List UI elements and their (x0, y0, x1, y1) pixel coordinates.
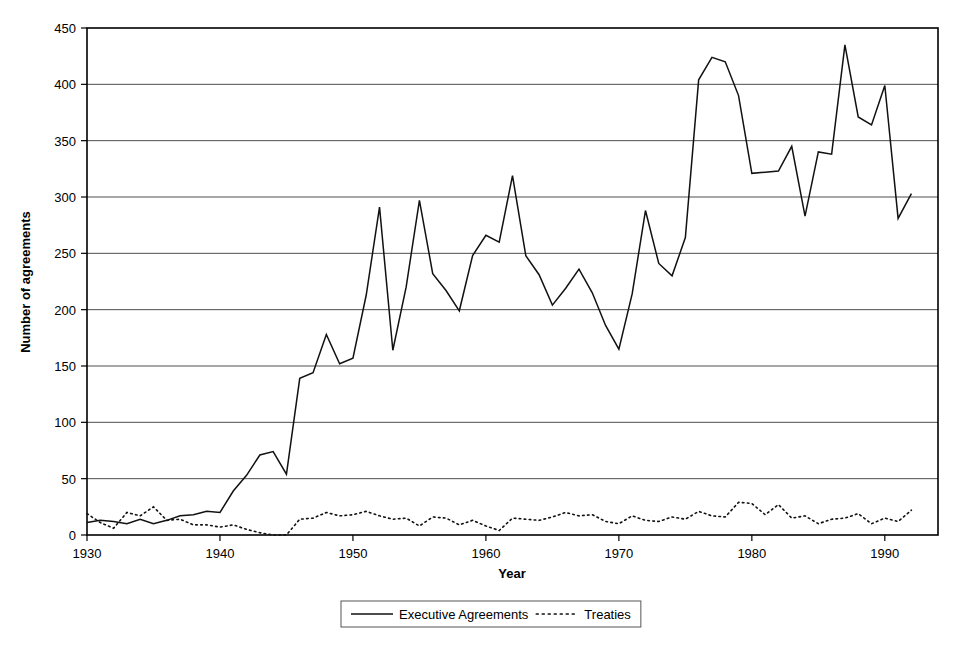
y-axis-tick-label: 100 (54, 415, 76, 430)
y-axis-tick-label: 0 (69, 528, 76, 543)
gridlines (87, 84, 938, 478)
chart-legend: Executive AgreementsTreaties (341, 601, 641, 627)
y-axis-title: Number of agreements (18, 211, 33, 353)
series-line-treaties (87, 502, 911, 535)
x-axis-tick-label: 1970 (604, 546, 633, 561)
data-series (87, 45, 911, 535)
y-axis-tick-label: 150 (54, 359, 76, 374)
y-axis-tick-label: 450 (54, 21, 76, 36)
legend-label-treaties: Treaties (584, 607, 631, 622)
y-axis-tick-label: 350 (54, 134, 76, 149)
x-axis-tick-label: 1990 (870, 546, 899, 561)
x-axis-tick-label: 1950 (338, 546, 367, 561)
x-axis-title: Year (498, 566, 525, 581)
line-chart: 050100150200250300350400450 193019401950… (0, 0, 963, 650)
x-axis-tick-label: 1980 (737, 546, 766, 561)
x-axis-tick-label: 1960 (471, 546, 500, 561)
y-axis-tick-label: 400 (54, 77, 76, 92)
y-axis-tick-label: 300 (54, 190, 76, 205)
legend-label-executive-agreements: Executive Agreements (399, 607, 529, 622)
y-axis-tick-label: 250 (54, 246, 76, 261)
series-line-executive-agreements (87, 45, 911, 524)
x-axis-tick-label: 1930 (73, 546, 102, 561)
plot-area-border (87, 28, 938, 535)
x-axis-ticks: 1930194019501960197019801990 (73, 535, 900, 561)
y-axis-ticks: 050100150200250300350400450 (54, 21, 87, 543)
x-axis-tick-label: 1940 (206, 546, 235, 561)
chart-figure: 050100150200250300350400450 193019401950… (0, 0, 963, 650)
y-axis-tick-label: 200 (54, 303, 76, 318)
y-axis-tick-label: 50 (62, 472, 76, 487)
